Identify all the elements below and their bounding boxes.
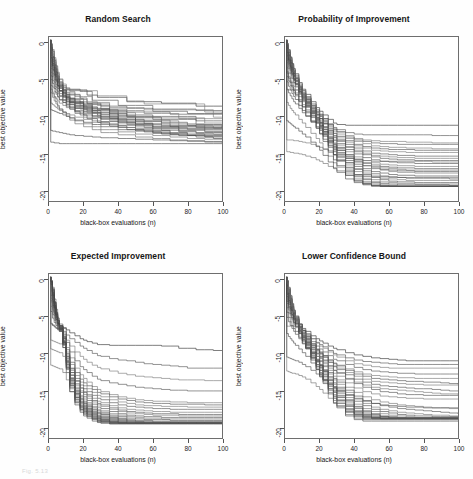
x-tick-label: 40 xyxy=(350,208,357,215)
x-tick xyxy=(48,439,49,443)
panel-lower-confidence-bound: Lower Confidence Bound best objective va… xyxy=(236,237,472,474)
x-tick xyxy=(354,202,355,206)
y-tick-label: 0 xyxy=(275,279,282,283)
x-tick xyxy=(319,439,320,443)
y-tick-label: -20 xyxy=(39,428,46,437)
x-tick xyxy=(188,439,189,443)
series-line xyxy=(287,277,458,395)
x-tick-label: 60 xyxy=(385,445,392,452)
x-axis-title: black-box evaluations (n) xyxy=(236,219,472,226)
series-line xyxy=(51,277,222,368)
series-line xyxy=(51,277,222,405)
x-axis-title: black-box evaluations (n) xyxy=(0,219,236,226)
x-axis-title: black-box evaluations (n) xyxy=(0,456,236,463)
x-tick xyxy=(424,439,425,443)
series-line xyxy=(287,40,458,162)
series-lines xyxy=(49,274,222,438)
series-line xyxy=(287,277,458,408)
x-tick-label: 0 xyxy=(282,445,286,452)
plot-box xyxy=(48,273,223,439)
y-tick-label: 0 xyxy=(39,279,46,283)
series-line xyxy=(287,277,458,368)
x-tick-label: 0 xyxy=(46,208,50,215)
series-line xyxy=(287,277,458,365)
x-tick xyxy=(48,202,49,206)
y-tick-label: -5 xyxy=(275,316,282,322)
x-tick-label: 100 xyxy=(218,445,229,452)
x-tick xyxy=(83,202,84,206)
x-tick-label: 60 xyxy=(149,445,156,452)
series-line xyxy=(51,277,222,381)
x-tick-label: 80 xyxy=(184,208,191,215)
series-line xyxy=(287,40,458,156)
y-tick-label: -5 xyxy=(39,316,46,322)
series-line xyxy=(287,277,458,419)
panel-title: Probability of Improvement xyxy=(236,14,472,24)
series-line xyxy=(287,40,458,143)
plot-area xyxy=(48,273,223,439)
plot-area xyxy=(48,36,223,202)
x-tick-label: 40 xyxy=(114,445,121,452)
x-tick-label: 40 xyxy=(350,445,357,452)
series-line xyxy=(287,40,458,186)
x-tick xyxy=(223,439,224,443)
series-line xyxy=(287,40,458,136)
y-axis-title: best objective value xyxy=(233,36,243,202)
y-tick-label: -15 xyxy=(275,391,282,400)
plot-box xyxy=(48,36,223,202)
series-line xyxy=(287,40,458,186)
x-axis: 020406080100 xyxy=(48,439,223,445)
panel-title: Expected Improvement xyxy=(0,251,236,261)
y-tick-label: -20 xyxy=(39,191,46,200)
x-tick xyxy=(284,439,285,443)
series-lines xyxy=(49,37,222,201)
series-line xyxy=(287,40,458,150)
x-tick-label: 40 xyxy=(114,208,121,215)
series-line xyxy=(51,277,222,351)
series-line xyxy=(287,277,458,419)
x-tick xyxy=(118,439,119,443)
x-tick-label: 100 xyxy=(454,208,465,215)
y-tick-label: -20 xyxy=(275,428,282,437)
x-tick-label: 60 xyxy=(385,208,392,215)
series-lines xyxy=(285,37,458,201)
x-tick-label: 20 xyxy=(79,208,86,215)
y-axis-title: best objective value xyxy=(0,36,7,202)
series-line xyxy=(51,277,222,391)
series-line xyxy=(51,277,222,423)
panel-title: Random Search xyxy=(0,14,236,24)
x-tick xyxy=(389,202,390,206)
plot-area xyxy=(284,273,459,439)
series-line xyxy=(51,40,222,129)
y-tick-label: 0 xyxy=(39,42,46,46)
y-tick-label: -15 xyxy=(39,391,46,400)
x-tick-label: 80 xyxy=(420,208,427,215)
series-line xyxy=(287,40,458,169)
series-line xyxy=(287,40,458,149)
x-axis: 020406080100 xyxy=(284,439,459,445)
series-line xyxy=(287,277,458,385)
panel-expected-improvement: Expected Improvement best objective valu… xyxy=(0,237,236,474)
x-tick-label: 20 xyxy=(315,208,322,215)
x-tick-label: 20 xyxy=(315,445,322,452)
series-line xyxy=(51,277,222,407)
series-line xyxy=(287,277,458,417)
x-tick xyxy=(284,202,285,206)
x-tick xyxy=(389,439,390,443)
series-line xyxy=(287,277,458,419)
x-tick xyxy=(459,439,460,443)
series-line xyxy=(287,277,458,417)
y-tick-label: -15 xyxy=(275,154,282,163)
plot-box xyxy=(284,36,459,202)
series-line xyxy=(287,40,458,186)
y-tick-label: -5 xyxy=(275,79,282,85)
series-line xyxy=(287,277,458,374)
x-tick-label: 20 xyxy=(79,445,86,452)
series-line xyxy=(51,40,222,106)
x-tick-label: 100 xyxy=(218,208,229,215)
series-line xyxy=(287,40,458,186)
panel-title: Lower Confidence Bound xyxy=(236,251,472,261)
x-tick xyxy=(319,202,320,206)
x-tick-label: 0 xyxy=(46,445,50,452)
x-tick-label: 80 xyxy=(184,445,191,452)
